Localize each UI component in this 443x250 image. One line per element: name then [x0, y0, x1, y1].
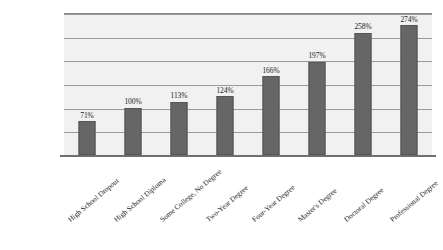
bar[interactable]	[355, 33, 372, 155]
bar-group[interactable]: 71%	[64, 13, 110, 155]
bar-value-label: 166%	[262, 66, 279, 75]
bar[interactable]	[217, 96, 234, 155]
bar-value-label: 71%	[80, 111, 93, 120]
category-label-slot: Two-Year Degree	[202, 157, 248, 247]
bar-group[interactable]: 100%	[110, 13, 156, 155]
category-label: Four-Year Degree	[250, 183, 296, 224]
bar[interactable]	[79, 121, 96, 155]
bar-value-label: 124%	[216, 86, 233, 95]
bar-value-label: 100%	[124, 97, 141, 106]
bar-group[interactable]: 274%	[386, 13, 432, 155]
bar-value-label: 113%	[171, 91, 188, 100]
bar-group[interactable]: 124%	[202, 13, 248, 155]
chart-screenshot: 71%100%113%124%166%197%258%274% High Sch…	[0, 0, 443, 250]
bar-series: 71%100%113%124%166%197%258%274%	[64, 13, 432, 155]
category-label-slot: Four-Year Degree	[248, 157, 294, 247]
category-label-slot: Doctoral Degree	[340, 157, 386, 247]
bar-group[interactable]: 166%	[248, 13, 294, 155]
category-label: Master's Degree	[296, 186, 338, 224]
category-label-slot: Professional Degree	[386, 157, 432, 247]
category-label-slot: High School Dropout	[64, 157, 110, 247]
bar-group[interactable]: 258%	[340, 13, 386, 155]
bar[interactable]	[401, 25, 418, 155]
category-label-slot: High School Diploma	[110, 157, 156, 247]
bar-group[interactable]: 113%	[156, 13, 202, 155]
bar[interactable]	[125, 108, 142, 155]
category-label: Professional Degree	[388, 179, 440, 224]
category-label-slot: Some College, No Degree	[156, 157, 202, 247]
bar[interactable]	[171, 102, 188, 155]
bar[interactable]	[263, 76, 280, 155]
bar-value-label: 274%	[400, 15, 417, 24]
category-label: Two-Year Degree	[204, 183, 250, 224]
bar-value-label: 197%	[308, 51, 325, 60]
bar-value-label: 258%	[354, 22, 371, 31]
category-label-slot: Master's Degree	[294, 157, 340, 247]
bar[interactable]	[309, 62, 326, 155]
x-axis-category-labels: High School DropoutHigh School DiplomaSo…	[64, 157, 432, 247]
category-label: Doctoral Degree	[342, 185, 385, 223]
bar-group[interactable]: 197%	[294, 13, 340, 155]
